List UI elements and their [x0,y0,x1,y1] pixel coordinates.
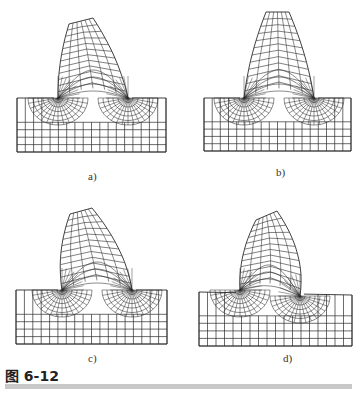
caption-divider [5,384,352,389]
panel-label-a: a) [88,170,97,182]
mesh-panel-c [16,208,167,344]
panel-label-c: c) [88,352,97,364]
mesh-panel-b [204,12,351,151]
mesh-panel-a [17,18,166,152]
panel-label-b: b) [276,166,285,178]
panel-label-d: d) [283,352,292,364]
figure-caption: 图 6-12 [5,365,59,385]
mesh-panel-d [199,211,352,346]
fem-mesh-figure [0,0,363,393]
